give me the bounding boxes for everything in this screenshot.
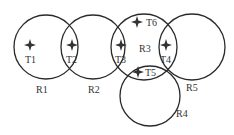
target-label-t1: T1 bbox=[25, 54, 36, 65]
region-label-r4: R4 bbox=[176, 108, 188, 119]
region-circle-r5 bbox=[159, 14, 225, 80]
region-circle-r1 bbox=[14, 15, 78, 79]
target-label-t3: T3 bbox=[115, 54, 126, 65]
region-target-diagram: R1R2R3R4R5T1T2T3T4T5T6 bbox=[0, 0, 234, 135]
region-label-r5: R5 bbox=[186, 82, 198, 93]
target-star-icon bbox=[131, 16, 143, 28]
region-label-r1: R1 bbox=[36, 84, 48, 95]
region-circles bbox=[14, 14, 225, 126]
target-label-t6: T6 bbox=[146, 17, 157, 28]
target-label-t5: T5 bbox=[145, 67, 156, 78]
region-label-r3: R3 bbox=[139, 43, 151, 54]
target-label-t4: T4 bbox=[160, 54, 171, 65]
target-star-icon bbox=[132, 66, 144, 78]
labels: R1R2R3R4R5T1T2T3T4T5T6 bbox=[25, 17, 198, 119]
target-star-icon bbox=[160, 39, 172, 51]
region-label-r2: R2 bbox=[88, 84, 100, 95]
target-star-icon bbox=[66, 39, 78, 51]
target-star-icon bbox=[24, 39, 36, 51]
region-circle-r2 bbox=[61, 15, 125, 79]
target-label-t2: T2 bbox=[66, 54, 77, 65]
